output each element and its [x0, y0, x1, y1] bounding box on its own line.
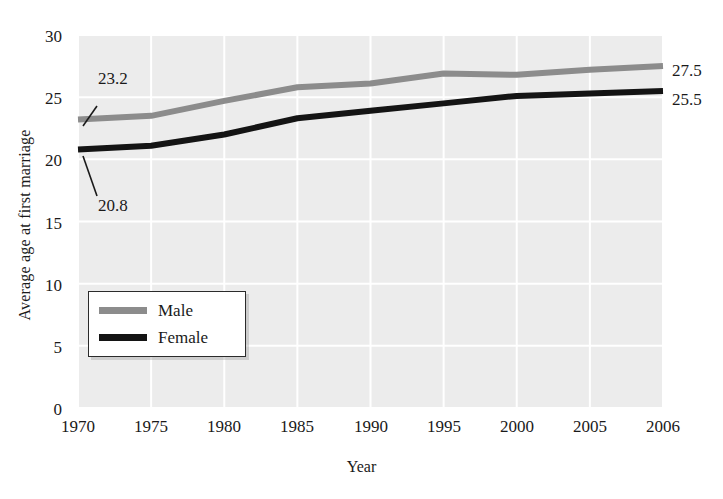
legend-label-male: Male	[158, 302, 193, 319]
legend-item-female: Female	[99, 325, 208, 349]
legend: Male Female	[88, 291, 246, 357]
callout-label-male-start: 23.2	[98, 70, 128, 87]
legend-item-male: Male	[99, 298, 193, 322]
x-tick-2006: 2006	[623, 418, 703, 435]
x-tick-1980: 1980	[184, 418, 264, 435]
x-tick-1995: 1995	[404, 418, 484, 435]
x-tick-1990: 1990	[331, 418, 411, 435]
end-label-male: 27.5	[672, 62, 702, 79]
legend-swatch-male	[99, 307, 147, 314]
x-axis-title: Year	[0, 458, 723, 476]
end-label-female: 25.5	[672, 91, 702, 108]
chart-container: Average age at first marriage 30 25 20 1…	[0, 0, 723, 499]
x-tick-2005: 2005	[550, 418, 630, 435]
x-tick-1985: 1985	[257, 418, 337, 435]
legend-label-female: Female	[158, 329, 208, 346]
x-tick-1975: 1975	[111, 418, 191, 435]
legend-swatch-female	[99, 334, 147, 341]
x-tick-2000: 2000	[477, 418, 557, 435]
callout-label-female-start: 20.8	[98, 197, 128, 214]
x-tick-1970: 1970	[38, 418, 118, 435]
